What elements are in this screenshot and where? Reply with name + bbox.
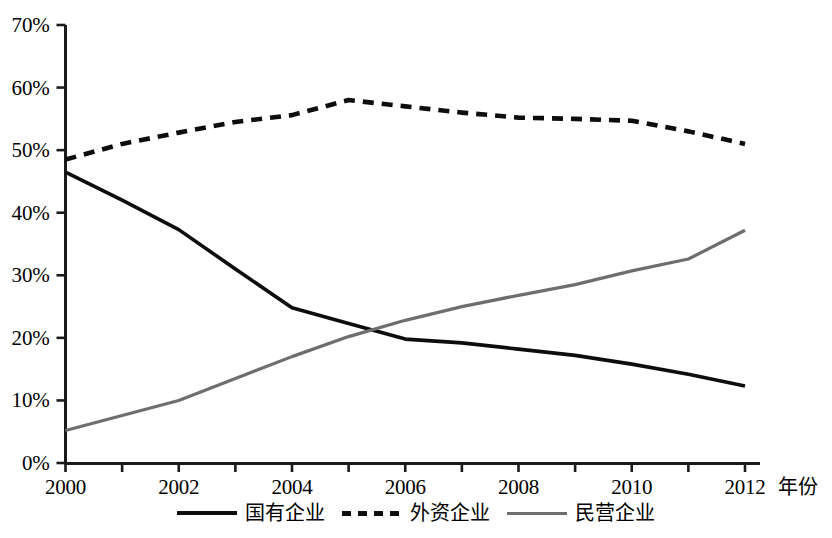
x-axis-tick-label: 2004	[247, 477, 337, 498]
x-axis-tick-label: 2012	[700, 477, 790, 498]
legend-swatch-line	[342, 511, 402, 516]
legend-swatch-line	[177, 511, 237, 515]
y-axis-tick-label: 70%	[0, 15, 50, 36]
x-axis-tick-label: 2006	[360, 477, 450, 498]
y-axis-tick-label: 30%	[0, 265, 50, 286]
x-axis-title: 年份	[778, 477, 818, 497]
dashed-black-line-icon	[342, 506, 402, 520]
chart-legend: 国有企业外资企业民营企业	[0, 503, 832, 523]
line-chart: 0%10%20%30%40%50%60%70% 2000200220042006…	[0, 0, 832, 538]
legend-item: 外资企业	[342, 503, 490, 523]
y-axis-tick-label: 20%	[0, 328, 50, 349]
series-line	[66, 230, 746, 430]
x-axis-tick-label: 2008	[474, 477, 564, 498]
solid-gray-line-icon	[507, 506, 567, 520]
x-axis-tick-label: 2000	[21, 477, 111, 498]
y-axis-tick-label: 0%	[0, 453, 50, 474]
legend-item: 民营企业	[507, 503, 655, 523]
legend-item-label: 国有企业	[245, 503, 325, 523]
y-axis-tick-label: 40%	[0, 203, 50, 224]
series-line	[66, 172, 746, 386]
legend-item-label: 外资企业	[410, 503, 490, 523]
y-axis-tick-label: 60%	[0, 78, 50, 99]
legend-item: 国有企业	[177, 503, 325, 523]
legend-swatch-line	[507, 512, 567, 515]
axes	[64, 25, 760, 464]
y-axis-tick-label: 10%	[0, 390, 50, 411]
series-line	[66, 100, 746, 159]
data-series-group	[66, 100, 746, 430]
x-axis-tick-label: 2002	[134, 477, 224, 498]
solid-black-line-icon	[177, 506, 237, 520]
y-axis-tick-label: 50%	[0, 140, 50, 161]
plot-area	[0, 0, 832, 538]
x-axis-tick-label: 2010	[587, 477, 677, 498]
legend-item-label: 民营企业	[575, 503, 655, 523]
